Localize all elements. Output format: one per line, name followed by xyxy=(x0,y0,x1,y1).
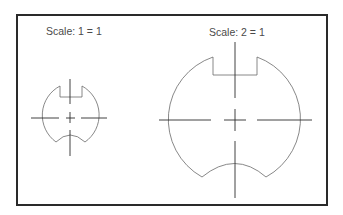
large-part-outline xyxy=(168,57,300,177)
small-part-view xyxy=(31,79,107,156)
large-centerlines xyxy=(159,42,312,198)
drawing-canvas: Scale: 1 = 1 Scale: 2 = 1 xyxy=(0,0,343,215)
large-part-view xyxy=(159,42,312,198)
drawing-svg xyxy=(0,0,343,215)
small-part-outline xyxy=(42,86,99,142)
